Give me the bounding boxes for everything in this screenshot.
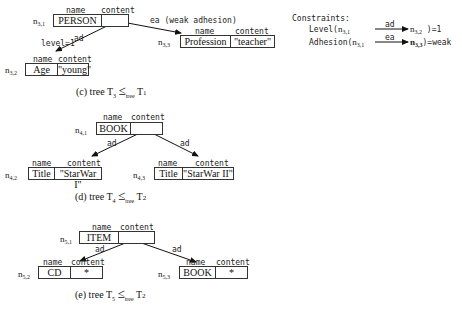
constraint-adhesion: Adhesion(n3,1	[309, 37, 364, 48]
node-n52-name: CD	[38, 266, 71, 279]
node-label-n41: n4,1	[75, 125, 87, 136]
node-n42-content: "StarWar I"	[54, 167, 102, 180]
node-n51-name: ITEM	[79, 231, 119, 244]
node-n31-name: PERSON	[53, 14, 102, 27]
caption-t3: (c) tree T3 ≤tree T1	[76, 83, 147, 99]
node-label-n51: n5,1	[60, 234, 72, 245]
constraints-title: Constraints:	[292, 14, 350, 23]
node-n32-content: "young"	[57, 63, 89, 76]
constraint-level: Level(n3,1	[309, 24, 350, 35]
header-content: content	[131, 113, 165, 122]
node-label-n31: n3,1	[33, 16, 45, 27]
node-n32-name: Age	[25, 63, 58, 76]
node-n52-content: *	[70, 266, 103, 279]
node-n51-content	[118, 231, 155, 244]
node-label-n42: n4,2	[5, 170, 17, 181]
constraint-arrow-label-ad: ad	[385, 20, 395, 29]
edge-label-ad-left: ad	[107, 139, 117, 148]
node-label-n33: n3,3	[158, 37, 170, 48]
node-label-n53: n5,3	[158, 269, 170, 280]
edge-label-level: level=1	[41, 39, 75, 48]
edge-label-ad-left: ad	[95, 245, 105, 254]
node-n41-name: BOOK	[96, 122, 131, 135]
edge-label-ea: ea (weak adhesion)	[150, 16, 237, 25]
header-name: name	[103, 113, 122, 122]
node-n43-content: "StarWar II"	[182, 167, 234, 180]
node-n33-content: "teacher"	[230, 35, 275, 48]
node-n33-name: Profession	[180, 35, 231, 48]
node-n43-name: Title	[154, 167, 183, 180]
constraint-level-result: n3,2 )=1	[410, 24, 441, 35]
node-n53-name: BOOK	[179, 266, 216, 279]
node-n31-content	[101, 14, 129, 27]
edge-label-ad-right: ad	[172, 245, 182, 254]
edge-label-ad-right: ad	[180, 139, 190, 148]
edge-label-ad: ad	[74, 34, 84, 43]
constraint-adhesion-result: n3,3)=weak	[410, 37, 451, 48]
node-n53-content: *	[215, 266, 248, 279]
constraint-arrow-label-ea: ea	[385, 33, 395, 42]
caption-t4: (d) tree T4 ≤tree T2	[75, 188, 146, 204]
node-n41-content	[130, 122, 163, 135]
node-label-n32: n3,2	[5, 65, 17, 76]
node-n42-name: Title	[28, 167, 55, 180]
node-label-n52: n5,2	[18, 269, 30, 280]
caption-t5: (e) tree T5 ≤tree T2	[75, 286, 146, 302]
node-label-n43: n4,3	[133, 170, 145, 181]
